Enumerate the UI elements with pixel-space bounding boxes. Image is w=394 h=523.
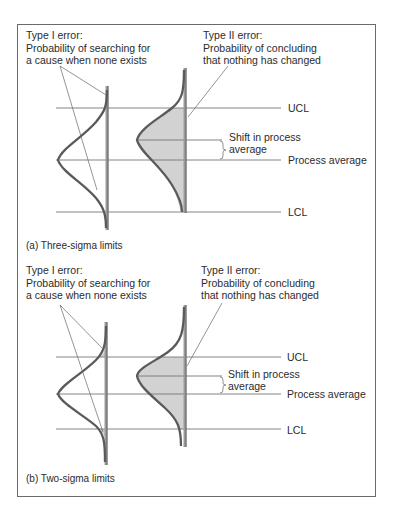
type1-pointer-upper-b <box>60 305 104 350</box>
type1-annotation-b: Type I error: Probability of searching f… <box>26 264 150 302</box>
process-average-label-b: Process average <box>287 388 366 400</box>
ucl-label-b: UCL <box>287 351 308 363</box>
type1-line2-a: a cause when none exists <box>26 54 150 67</box>
type1-line1-b: Probability of searching for <box>26 277 150 290</box>
caption-b: (b) Two-sigma limits <box>26 473 115 484</box>
lcl-label-b: LCL <box>287 424 306 436</box>
type2-pointer-a <box>188 66 228 117</box>
type2-line2-b: that nothing has changed <box>201 289 319 302</box>
type1-pointer-upper-a <box>60 66 106 95</box>
type1-title-b: Type I error: <box>26 264 150 277</box>
type2-annotation-a: Type II error: Probability of concluding… <box>203 29 321 67</box>
type2-title-a: Type II error: <box>203 29 321 42</box>
process-average-label-a: Process average <box>288 154 367 166</box>
type2-annotation-b: Type II error: Probability of concluding… <box>201 264 319 302</box>
shift-brace-a <box>220 141 226 159</box>
type2-line1-a: Probability of concluding <box>203 42 321 55</box>
shift-brace-b <box>220 377 226 393</box>
type2-line1-b: Probability of concluding <box>201 277 319 290</box>
in-control-curve-a <box>58 90 107 228</box>
type2-line2-a: that nothing has changed <box>203 54 321 67</box>
caption-a: (a) Three-sigma limits <box>26 240 123 251</box>
type1-pointer-lower-b <box>60 305 103 432</box>
type1-line1-a: Probability of searching for <box>26 42 150 55</box>
shift-label-line1-b: Shift in process <box>228 368 300 380</box>
shift-label-a: Shift in process average <box>229 131 301 155</box>
ucl-label-a: UCL <box>288 102 309 114</box>
type1-title-a: Type I error: <box>26 29 150 42</box>
control-chart-diagram <box>0 0 394 523</box>
type1-line2-b: a cause when none exists <box>26 289 150 302</box>
lcl-label-a: LCL <box>288 206 307 218</box>
shift-label-line1-a: Shift in process <box>229 131 301 143</box>
type2-title-b: Type II error: <box>201 264 319 277</box>
type1-annotation-a: Type I error: Probability of searching f… <box>26 29 150 67</box>
